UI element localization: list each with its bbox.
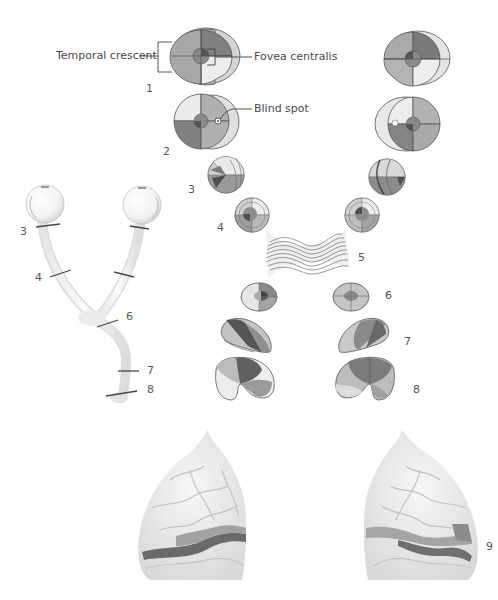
pathway-number-8: 8 [147, 384, 154, 395]
eyeball-left [26, 185, 64, 223]
lateral-geniculate-8-left [216, 357, 275, 400]
optic-tract-section-left [241, 283, 277, 311]
retina-left [174, 94, 239, 149]
visual-field-right [384, 31, 450, 86]
optic-nerve-section-3-right [369, 159, 405, 195]
stage-number-2: 2 [163, 146, 170, 157]
diagram-graphics [0, 0, 498, 600]
pathway-number-6: 6 [126, 311, 133, 322]
stage-number-3: 3 [188, 184, 195, 195]
stage-number-9: 9 [486, 541, 493, 552]
pathway-number-4: 4 [35, 272, 42, 283]
lateral-geniculate-7-right [339, 318, 389, 352]
optic-nerve-section-4-right [345, 198, 379, 232]
stage-number-5: 5 [358, 252, 365, 263]
optic-nerve-section-3-left [208, 156, 244, 193]
stage-number-7: 7 [404, 336, 411, 347]
eyeball-right [123, 186, 161, 224]
stage-number-1: 1 [146, 83, 153, 94]
temporal-crescent-label: Temporal crescent [56, 50, 157, 61]
stage-number-4: 4 [217, 222, 224, 233]
lateral-geniculate-8-right [336, 357, 395, 400]
fovea-centralis-label: Fovea centralis [254, 51, 337, 62]
optic-nerve-section-4-left [235, 198, 269, 232]
stage-number-6: 6 [385, 290, 392, 301]
pathway-number-7: 7 [147, 365, 154, 376]
optic-chiasm [266, 230, 350, 278]
brain-right-hemisphere [364, 430, 478, 580]
visual-pathway-diagram: Temporal crescent Fovea centralis Blind … [0, 0, 498, 600]
stage-number-8: 8 [413, 384, 420, 395]
brain-left-hemisphere [138, 430, 246, 580]
optic-tract-section-right [333, 283, 369, 311]
retina-right [375, 97, 440, 151]
lateral-geniculate-7-left [221, 318, 271, 352]
blind-spot-label: Blind spot [254, 103, 309, 114]
visual-field-left [170, 28, 240, 85]
pathway-number-3: 3 [20, 226, 27, 237]
